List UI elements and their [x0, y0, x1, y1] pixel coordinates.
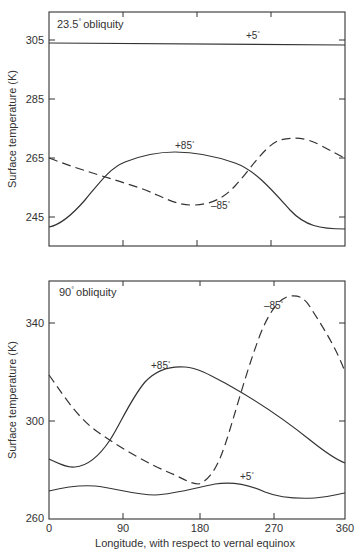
top-series-plus5 — [49, 43, 345, 45]
x-axis-label: Longitude, with respect to vernal equino… — [95, 537, 295, 549]
bottom-panel: 340 300 260 0 90 180 270 360 Longitude, … — [6, 281, 354, 549]
bottom-x-ticks — [123, 281, 274, 519]
top-ytick-305: 305 — [26, 34, 44, 46]
top-label-plus85: +85° — [175, 140, 195, 151]
bottom-ytick-340: 340 — [26, 317, 44, 329]
bottom-label-plus5: +5° — [240, 471, 254, 482]
top-ytick-245: 245 — [26, 211, 44, 223]
top-ytick-265: 265 — [26, 152, 44, 164]
bottom-y-axis-label: Surface temperature (K) — [6, 341, 18, 459]
bottom-series-minus85 — [49, 296, 345, 484]
top-ytick-285: 285 — [26, 93, 44, 105]
bottom-y-ticks — [49, 323, 345, 421]
xtick-360: 360 — [336, 522, 354, 534]
top-series-plus85 — [49, 152, 345, 229]
bottom-label-minus85: –85° — [264, 300, 284, 311]
top-x-ticks — [123, 12, 271, 246]
bottom-series-plus5 — [49, 483, 345, 498]
xtick-180: 180 — [191, 522, 209, 534]
top-label-plus5: +5° — [246, 30, 260, 41]
xtick-0: 0 — [46, 522, 52, 534]
xtick-270: 270 — [265, 522, 283, 534]
top-panel-title: 23.5°obliquity — [57, 18, 124, 30]
figure: 305 285 265 245 23.5°obliquity Surface t… — [0, 0, 360, 554]
bottom-ytick-260: 260 — [26, 512, 44, 524]
xtick-90: 90 — [117, 522, 129, 534]
bottom-panel-title: 90°obliquity — [59, 286, 117, 298]
top-plot-frame — [49, 12, 345, 246]
top-series-minus85 — [49, 138, 345, 205]
bottom-series-plus85 — [49, 367, 345, 467]
bottom-label-plus85: +85° — [151, 360, 171, 371]
bottom-ytick-300: 300 — [26, 415, 44, 427]
top-label-minus85: –85° — [211, 200, 231, 211]
top-panel: 305 285 265 245 23.5°obliquity Surface t… — [6, 12, 345, 246]
top-y-axis-label: Surface temperature (K) — [6, 70, 18, 188]
